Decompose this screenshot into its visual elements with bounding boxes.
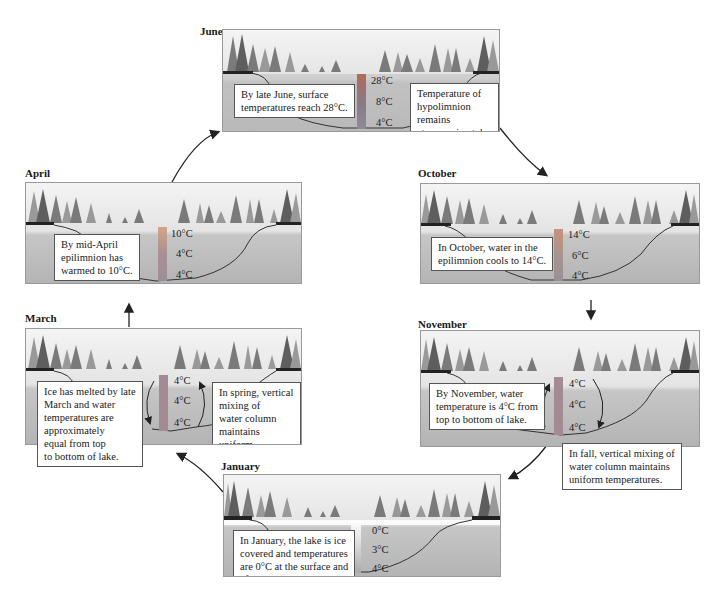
panel-title-october: October [418, 167, 456, 179]
temp-middle: 8°C [376, 96, 392, 107]
temp-middle: 4°C [569, 399, 585, 410]
trees-icon [421, 190, 699, 224]
mixing-arrow-down-icon [147, 381, 154, 423]
temp-middle: 6°C [572, 250, 588, 261]
temp-middle: 4°C [174, 395, 190, 406]
panel-title-april: April [25, 167, 50, 179]
callout-ice-covered: In January, the lake is ice covered and … [233, 530, 355, 577]
mixing-arrow-up-icon [198, 383, 205, 427]
arrow-april-to-june [172, 132, 218, 182]
temp-surface: 14°C [568, 229, 590, 240]
panel-title-january: January [221, 460, 260, 472]
callout-hypolimnion: Temperature of hypolimnion remains at ap… [410, 83, 499, 132]
temperature-column [554, 229, 563, 281]
arrow-january-to-march [178, 454, 223, 492]
trees-icon [227, 34, 499, 72]
temp-surface: 0°C [372, 525, 388, 536]
callout-epilimnion-cooling: In October, water in the epilimnion cool… [431, 237, 553, 271]
callout-ice-melted: Ice has melted by late March and water t… [37, 381, 143, 467]
callout-epilimnion-warming: By mid-April epilimnion has warmed to 10… [54, 234, 140, 281]
trees-icon [28, 189, 301, 223]
temp-surface: 4°C [174, 375, 190, 386]
panel-title-march: March [25, 312, 57, 324]
temp-surface: 10°C [171, 228, 193, 239]
temp-bottom: 4°C [174, 417, 190, 428]
panel-january: 0°C 3°C 4°C In January, the lake is ice … [223, 474, 501, 577]
callout-november-uniform: By November, water temperature is 4°C fr… [429, 383, 545, 430]
temp-bottom: 4°C [569, 422, 585, 433]
panel-june: 28°C 8°C 4°C By late June, surface tempe… [222, 29, 500, 132]
temp-middle: 3°C [372, 544, 388, 555]
temp-bottom: 4°C [376, 117, 392, 128]
trees-icon [224, 481, 500, 517]
temperature-column [357, 74, 366, 129]
temp-bottom: 4°C [572, 270, 588, 281]
trees-icon [28, 335, 301, 369]
panel-title-november: November [418, 318, 467, 330]
temperature-column [159, 375, 168, 431]
callout-surface-temperature: By late June, surface temperatures reach… [234, 84, 355, 118]
callout-spring-mixing: In spring, vertical mixing of water colu… [212, 382, 301, 445]
temp-surface: 28°C [371, 75, 393, 86]
temp-bottom: 4°C [176, 269, 192, 280]
mixing-arrow-down-icon [593, 379, 603, 427]
panel-october: 14°C 6°C 4°C In October, water in the ep… [420, 183, 700, 284]
panel-title-june: June [200, 25, 223, 37]
trees-icon [421, 337, 699, 371]
temp-bottom: 4°C [372, 563, 388, 574]
temperature-column [554, 377, 563, 435]
panel-april: 10°C 4°C 4°C By mid-April epilimnion has… [25, 182, 302, 284]
callout-fall-mixing: In fall, vertical mixing of water column… [562, 443, 682, 490]
panel-november: 4°C 4°C 4°C By November, water temperatu… [420, 330, 700, 447]
arrow-november-to-january [510, 444, 548, 478]
temp-surface: 4°C [569, 378, 585, 389]
temperature-column [158, 227, 167, 281]
arrow-june-to-october [500, 128, 546, 175]
temp-middle: 4°C [176, 248, 192, 259]
